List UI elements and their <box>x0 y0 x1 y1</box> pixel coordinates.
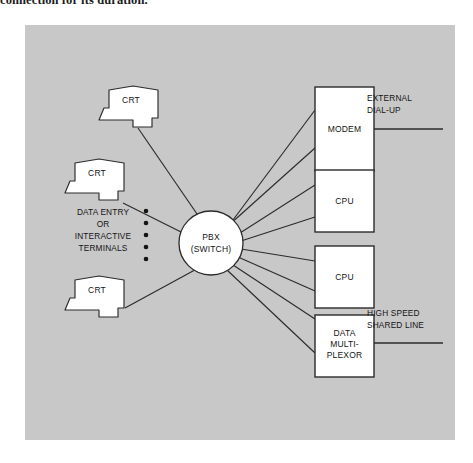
modem-box-label: MODEM <box>328 124 361 134</box>
ellipsis-dot <box>144 245 149 250</box>
crt-terminal-top-label: CRT <box>122 95 140 105</box>
network-diagram-svg: CRT CRT CRT DATA ENTRY OR INTERACTIVE TE… <box>25 25 455 440</box>
caption-text: connection for its duration. <box>0 0 260 8</box>
terminal-group-label-line4: TERMINALS <box>79 243 128 253</box>
cpu-box-lower[interactable]: CPU <box>315 246 374 308</box>
ellipsis-dot <box>144 233 149 238</box>
ellipsis-dot <box>144 209 149 214</box>
data-multiplexor-label-line1: DATA <box>333 328 355 338</box>
terminal-group-label-line3: INTERACTIVE <box>75 231 132 241</box>
ellipsis-dot <box>144 221 149 226</box>
crt-terminal-middle-label: CRT <box>88 168 106 178</box>
external-dial-up-label-line2: DIAL-UP <box>367 105 401 115</box>
data-multiplexor-label-line2: MULTI- <box>330 339 359 349</box>
terminal-group-label-line2: OR <box>97 219 110 229</box>
data-multiplexor-label-line3: PLEXOR <box>327 350 362 360</box>
pbx-switch-label-line1: PBX <box>202 232 220 242</box>
high-speed-shared-line-label-line1: HIGH SPEED <box>367 308 420 318</box>
cpu-box-lower-label: CPU <box>335 272 353 282</box>
terminal-group-label-line1: DATA ENTRY <box>77 207 130 217</box>
modem-box[interactable]: MODEM <box>315 87 374 171</box>
ellipsis-dot <box>144 257 149 262</box>
pbx-switch-node[interactable]: PBX (SWITCH) <box>179 211 243 275</box>
cpu-box-upper-label: CPU <box>335 196 353 206</box>
network-diagram-panel: CRT CRT CRT DATA ENTRY OR INTERACTIVE TE… <box>25 25 455 440</box>
high-speed-shared-line-label-line2: SHARED LINE <box>367 320 424 330</box>
data-multiplexor-box[interactable]: DATA MULTI- PLEXOR <box>315 315 374 377</box>
crt-terminal-bottom-label: CRT <box>88 285 106 295</box>
cpu-box-upper[interactable]: CPU <box>315 170 374 232</box>
external-dial-up-label-line1: EXTERNAL <box>367 93 412 103</box>
pbx-switch-circle <box>179 211 243 275</box>
pbx-switch-label-line2: (SWITCH) <box>191 244 231 254</box>
